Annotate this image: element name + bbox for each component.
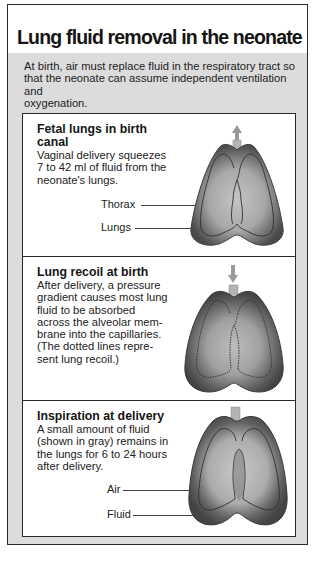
label-lungs: Lungs: [101, 221, 131, 233]
body-line: fluid to be absorbed: [37, 304, 168, 316]
body-line: (The dotted lines repre-: [37, 340, 168, 352]
lungs-illustration: [183, 261, 287, 399]
heading-line: Inspiration at delivery: [37, 410, 164, 423]
lungs-illustration: [187, 405, 291, 533]
heading-line: Lung recoil at birth: [37, 266, 148, 279]
panel-body: A small amount of fluid (shown in gray) …: [37, 423, 168, 472]
label-fluid: Fluid: [107, 508, 131, 520]
page-title: Lung fluid removal in the neonate: [17, 25, 302, 49]
heading-line: canal: [37, 136, 147, 149]
panel-heading: Inspiration at delivery: [37, 410, 164, 423]
title-area: Lung fluid removal in the neonate: [8, 5, 307, 53]
label-air: Air: [107, 483, 120, 495]
body-line: gradient causes most lung: [37, 291, 168, 303]
intro-line: At birth, air must replace fluid in the …: [24, 60, 304, 72]
body-line: Vaginal delivery squeezes: [37, 149, 166, 161]
down-arrow-icon: [228, 265, 238, 283]
intro-line: oxygenation.: [24, 97, 304, 109]
body-line: brane into the capillaries.: [37, 328, 168, 340]
body-line: the lungs for 6 to 24 hours: [37, 448, 168, 460]
label-thorax: Thorax: [101, 198, 135, 210]
lungs-illustration: [187, 120, 287, 250]
panel-heading: Lung recoil at birth: [37, 266, 148, 279]
panel-heading: Fetal lungs in birth canal: [37, 123, 147, 148]
intro-line: that the neonate can assume independent …: [24, 72, 304, 97]
intro-text: At birth, air must replace fluid in the …: [24, 60, 304, 109]
body-line: after delivery.: [37, 460, 168, 472]
panel-lung-recoil: Lung recoil at birth After delivery, a p…: [23, 256, 295, 401]
body-line: sent lung recoil.): [37, 353, 168, 365]
panel-body: Vaginal delivery squeezes 7 to 42 ml of …: [37, 149, 166, 186]
body-line: (shown in gray) remains in: [37, 435, 168, 447]
heading-line: Fetal lungs in birth: [37, 123, 147, 136]
panel-body: After delivery, a pressure gradient caus…: [37, 279, 168, 365]
body-line: After delivery, a pressure: [37, 279, 168, 291]
up-arrow-icon: [232, 125, 242, 140]
stages-panel: Fetal lungs in birth canal Vaginal deliv…: [22, 113, 296, 537]
panel-inspiration: Inspiration at delivery A small amount o…: [23, 400, 295, 536]
infographic-frame: Lung fluid removal in the neonate At bir…: [7, 4, 308, 545]
panel-fetal-lungs: Fetal lungs in birth canal Vaginal deliv…: [23, 114, 295, 256]
body-line: A small amount of fluid: [37, 423, 168, 435]
body-line: 7 to 42 ml of fluid from the: [37, 161, 166, 173]
body-line: across the alveolar mem-: [37, 316, 168, 328]
body-line: neonate's lungs.: [37, 174, 166, 186]
